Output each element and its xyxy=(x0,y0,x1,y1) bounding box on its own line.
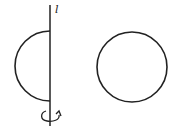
semicircle xyxy=(15,31,50,101)
axis-label: l xyxy=(55,3,59,16)
diagram: l xyxy=(0,0,176,133)
rotation-arrow-icon xyxy=(42,111,61,121)
circle xyxy=(97,32,167,102)
